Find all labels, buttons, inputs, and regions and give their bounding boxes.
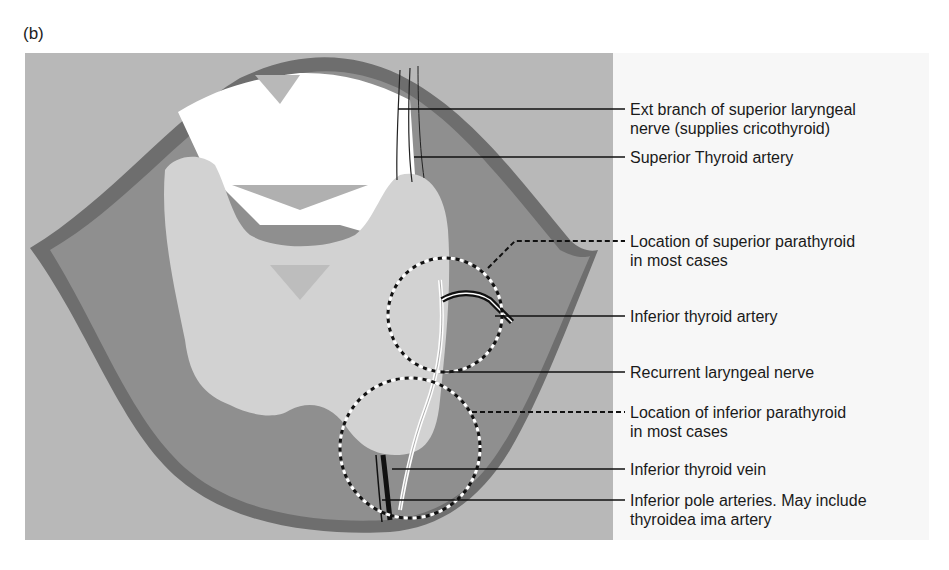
callout-recurrent-laryngeal-nerve: Recurrent laryngeal nerve — [630, 363, 814, 382]
callout-line: in most cases — [630, 422, 846, 441]
callout-line: Inferior thyroid vein — [630, 460, 766, 479]
callout-inferior-thyroid-artery: Inferior thyroid artery — [630, 307, 778, 326]
callout-line: Location of inferior parathyroid — [630, 403, 846, 422]
callout-line: Location of superior parathyroid — [630, 232, 855, 251]
callout-inferior-parathyroid-location: Location of inferior parathyroid in most… — [630, 403, 846, 441]
callout-line: Recurrent laryngeal nerve — [630, 363, 814, 382]
callout-line: nerve (supplies cricothyroid) — [630, 119, 856, 138]
callout-line: Inferior thyroid artery — [630, 307, 778, 326]
callout-line: Superior Thyroid artery — [630, 148, 793, 167]
callout-inferior-thyroid-vein: Inferior thyroid vein — [630, 460, 766, 479]
callout-line: in most cases — [630, 251, 855, 270]
callout-line: Inferior pole arteries. May include — [630, 491, 867, 510]
callout-ext-branch-superior-laryngeal-nerve: Ext branch of superior laryngeal nerve (… — [630, 100, 856, 138]
callout-superior-parathyroid-location: Location of superior parathyroid in most… — [630, 232, 855, 270]
callout-inferior-pole-arteries: Inferior pole arteries. May include thyr… — [630, 491, 867, 529]
callout-line: Ext branch of superior laryngeal — [630, 100, 856, 119]
callout-superior-thyroid-artery: Superior Thyroid artery — [630, 148, 793, 167]
callout-line: thyroidea ima artery — [630, 510, 867, 529]
thyroid-anatomy-diagram — [0, 0, 949, 570]
